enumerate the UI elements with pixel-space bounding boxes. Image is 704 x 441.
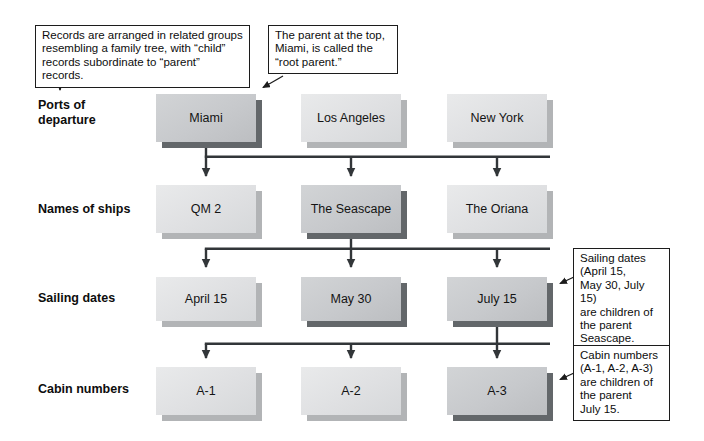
node-los-angeles: Los Angeles bbox=[301, 94, 401, 142]
node-a2: A-2 bbox=[301, 367, 401, 415]
node-a3: A-3 bbox=[447, 367, 547, 415]
node-july-15: July 15 bbox=[447, 277, 547, 321]
row-label-names-of-ships: Names of ships bbox=[38, 202, 168, 217]
node-a1: A-1 bbox=[156, 367, 256, 415]
node-april-15: April 15 bbox=[156, 277, 256, 321]
row-label-cabin-numbers: Cabin numbers bbox=[38, 382, 168, 397]
node-qm2: QM 2 bbox=[156, 185, 256, 233]
node-the-oriana: The Oriana bbox=[447, 185, 547, 233]
callout-arrow-root-parent bbox=[263, 76, 283, 88]
node-the-seascape: The Seascape bbox=[301, 185, 401, 233]
node-may-30: May 30 bbox=[301, 277, 401, 321]
row-label-ports-of-departure: Ports of departure bbox=[38, 98, 168, 128]
callout-arrow-cabin-numbers bbox=[560, 373, 574, 380]
callout-arrow-sailing-dates bbox=[560, 277, 574, 284]
callout-cabin-numbers: Cabin numbers (A-1, A-2, A-3) are childr… bbox=[573, 345, 670, 421]
node-miami: Miami bbox=[156, 94, 256, 142]
row-label-sailing-dates: Sailing dates bbox=[38, 291, 168, 306]
callout-root-parent: The parent at the top, Miami, is called … bbox=[268, 25, 398, 74]
node-new-york: New York bbox=[447, 94, 547, 142]
callout-family-tree: Records are arranged in related groups r… bbox=[35, 25, 250, 88]
hierarchical-database-diagram: Records are arranged in related groups r… bbox=[0, 0, 704, 441]
callout-sailing-dates: Sailing dates (April 15, May 30, July 15… bbox=[573, 248, 670, 351]
